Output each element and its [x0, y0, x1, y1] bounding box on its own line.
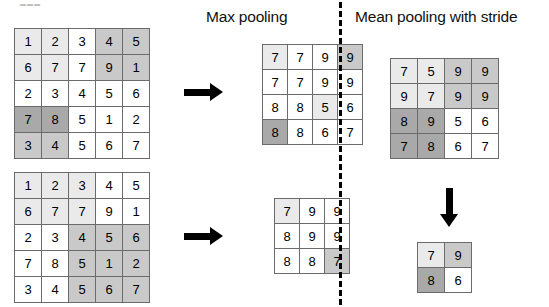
dashed-vertical-divider	[339, 2, 342, 305]
matrix-cell: 9	[391, 84, 417, 108]
matrix-cell: 2	[123, 107, 149, 132]
matrix-cell: 9	[325, 224, 349, 248]
matrix-cell: 5	[123, 29, 149, 54]
matrix-cell: 9	[418, 109, 444, 133]
matrix-cell: 8	[275, 224, 299, 248]
matrix-cell: 7	[418, 84, 444, 108]
matrix-cell: 9	[445, 84, 471, 108]
max-pooling-output-top: 7799779988568867	[262, 44, 363, 145]
matrix-cell: 9	[313, 70, 337, 94]
matrix-cell: 1	[15, 173, 41, 198]
matrix-cell: 4	[42, 277, 68, 302]
matrix-cell: 7	[325, 249, 349, 273]
matrix-cell: 9	[325, 199, 349, 223]
mean-pooling-output-matrix: 7986	[417, 242, 472, 293]
matrix-cell: 7	[42, 55, 68, 80]
matrix-cell: 3	[15, 277, 41, 302]
matrix-cell: 6	[472, 109, 498, 133]
matrix-cell: 3	[15, 133, 41, 158]
matrix-cell: 2	[42, 29, 68, 54]
matrix-cell: 1	[96, 251, 122, 276]
matrix-cell: 8	[42, 107, 68, 132]
matrix-cell: 4	[69, 81, 95, 106]
matrix-cell: 7	[391, 134, 417, 158]
matrix-cell: 8	[300, 249, 324, 273]
matrix-cell: 3	[42, 225, 68, 250]
matrix-cell: 7	[288, 45, 312, 69]
matrix-cell: 4	[69, 225, 95, 250]
matrix-cell: 9	[300, 224, 324, 248]
matrix-cell: 2	[42, 173, 68, 198]
matrix-cell: 8	[42, 251, 68, 276]
matrix-cell: 7	[123, 133, 149, 158]
matrix-cell: 1	[96, 107, 122, 132]
mean-pooling-input-matrix: 7599979989567867	[390, 58, 499, 159]
matrix-cell: 7	[288, 70, 312, 94]
arrow-shaft	[446, 188, 453, 214]
matrix-cell: 7	[42, 199, 68, 224]
mean-pooling-title: Mean pooling with stride	[355, 8, 517, 26]
matrix-cell: 1	[123, 199, 149, 224]
matrix-cell: 5	[69, 251, 95, 276]
matrix-cell: 8	[391, 109, 417, 133]
matrix-cell: 8	[275, 249, 299, 273]
arrow-shaft	[184, 89, 210, 96]
matrix-cell: 7	[472, 134, 498, 158]
matrix-cell: 9	[300, 199, 324, 223]
matrix-cell: 3	[42, 81, 68, 106]
matrix-cell: 6	[96, 277, 122, 302]
matrix-cell: 9	[96, 55, 122, 80]
matrix-cell: 2	[15, 81, 41, 106]
matrix-cell: 2	[123, 251, 149, 276]
matrix-cell: 3	[69, 173, 95, 198]
figure-canvas: ▬▬▬ Max pooling Mean pooling with stride…	[0, 0, 549, 307]
matrix-cell: 9	[313, 45, 337, 69]
matrix-cell: 9	[96, 199, 122, 224]
matrix-cell: 8	[263, 120, 287, 144]
matrix-cell: 7	[123, 277, 149, 302]
input-matrix-bottom: 1234567791234567851234567	[14, 172, 150, 303]
arrow-head	[210, 227, 223, 245]
matrix-cell: 8	[288, 120, 312, 144]
arrow-head	[210, 83, 223, 101]
arrow-right-icon-bottom	[184, 227, 223, 245]
matrix-cell: 1	[15, 29, 41, 54]
matrix-cell: 7	[15, 251, 41, 276]
matrix-cell: 6	[96, 133, 122, 158]
matrix-cell: 7	[263, 70, 287, 94]
matrix-cell: 8	[263, 95, 287, 119]
matrix-cell: 9	[445, 59, 471, 83]
matrix-cell: 5	[96, 81, 122, 106]
matrix-cell: 7	[263, 45, 287, 69]
matrix-cell: 7	[275, 199, 299, 223]
matrix-cell: 9	[472, 84, 498, 108]
arrow-shaft	[184, 233, 210, 240]
matrix-cell: 7	[69, 199, 95, 224]
matrix-cell: 4	[42, 133, 68, 158]
matrix-cell: 8	[418, 268, 444, 292]
matrix-cell: 6	[445, 268, 471, 292]
matrix-cell: 7	[418, 243, 444, 267]
input-matrix-top: 1234567791234567851234567	[14, 28, 150, 159]
matrix-cell: 2	[15, 225, 41, 250]
matrix-cell: 4	[96, 173, 122, 198]
matrix-cell: 1	[123, 55, 149, 80]
matrix-cell: 7	[15, 107, 41, 132]
matrix-cell: 8	[418, 134, 444, 158]
scan-artifact: ▬▬▬	[20, 1, 41, 7]
matrix-cell: 7	[391, 59, 417, 83]
matrix-cell: 6	[123, 225, 149, 250]
matrix-cell: 5	[69, 107, 95, 132]
matrix-cell: 9	[445, 243, 471, 267]
matrix-cell: 6	[313, 120, 337, 144]
matrix-cell: 5	[445, 109, 471, 133]
matrix-cell: 6	[445, 134, 471, 158]
arrow-head	[440, 214, 458, 227]
matrix-cell: 5	[69, 133, 95, 158]
matrix-cell: 7	[69, 55, 95, 80]
matrix-cell: 3	[69, 29, 95, 54]
matrix-cell: 6	[15, 55, 41, 80]
matrix-cell: 6	[123, 81, 149, 106]
matrix-cell: 5	[123, 173, 149, 198]
matrix-cell: 5	[96, 225, 122, 250]
